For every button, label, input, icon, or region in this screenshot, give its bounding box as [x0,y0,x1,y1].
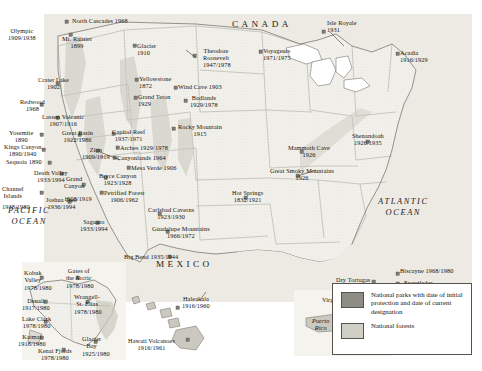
label-dates: 1966/1972 [167,232,195,239]
ocean-line: OCEAN [386,208,421,217]
label-dates: 1909/1919 [82,153,110,160]
park-label: Guadalupe Mountains1966/1972 [152,226,210,239]
label-dates: 1916/1929 [400,56,428,63]
park-label-alaska: 1978/1980 [74,309,102,316]
great-lakes [286,44,370,92]
park-label: 1947/1978 [203,62,231,69]
label-dates: Roosevelt [203,54,229,61]
label-dates: 1916/1960 [182,302,210,309]
park-label: Yellowstone1872 [139,76,171,89]
park-label: Great Smoky Mountains1926 [270,168,334,181]
park-label: North Cascades 1968 [72,18,128,25]
park-label: Yosemite1890 [9,130,33,143]
legend-swatch-parks [341,292,364,308]
park-label: Mammoth Cave1926 [288,145,330,158]
territory-label: PuertoRico [312,318,329,332]
label-dates: 1926 [302,151,315,158]
label-dates: St. Elias [76,300,98,307]
park-label: Great Basin1922/1986 [62,130,93,143]
park-label-alaska: 1978/1980 [24,285,52,292]
label-dates: 1899 [71,42,84,49]
park-label: Acadia1916/1929 [400,50,428,63]
park-label: Carlsbad Caverns1923/1930 [148,207,194,220]
label-dates: 1978/1980 [41,354,69,361]
ocean-label: PACIFICOCEAN [8,205,50,228]
label-dates: 1902 [47,83,60,90]
park-label: ChannelIslands [2,186,24,199]
park-label-alaska: GlacierBay [82,336,101,349]
territory-line: Rico [315,324,327,331]
park-label: Rocky Mountain1915 [178,124,222,137]
park-label-alaska: Kenai Fjords1978/1980 [38,348,72,361]
label-dates: 1890 [15,136,28,143]
label-name: Mesa Verde 1906 [131,164,176,171]
park-label: Voyageurs1971/1975 [263,48,291,61]
park-label: Joshua Tree1936/1994 [46,197,77,210]
label-dates: the Arctic [66,274,92,281]
legend-row-forests: National forests [341,322,465,339]
park-label: Wind Cave 1903 [178,84,222,91]
park-label: Sequoia 1890 [6,159,42,166]
park-label-alaska: Wrangell-St. Elias [74,294,100,307]
national-parks-map: Olympic1909/1938North Cascades 1968Mt. R… [0,0,482,371]
park-label-alaska: Denali1917/1980 [22,298,50,311]
park-label: Arches 1929/1978 [120,145,168,152]
park-label: Olympic1909/1938 [8,28,36,41]
country-label: MEXICO [156,260,213,270]
label-dates: 1909/1938 [8,34,36,41]
label-name: Canyonlands 1964 [117,154,166,161]
country-label: CANADA [232,20,292,30]
park-label-island: Haleakala1916/1960 [182,296,210,309]
park-label: Petrified Forest1906/1962 [104,190,145,203]
park-label-island: Hawaii Volcanoes1916/1961 [128,338,175,351]
park-label: Glacier1910 [137,43,156,56]
park-label-alaska: 1925/1980 [82,351,110,358]
park-label: Kings Canyon1890/1940 [4,144,41,157]
label-dates: 1910 [137,49,150,56]
label-dates: 1923/1930 [157,213,185,220]
legend-label-parks: National parks with date of initial prot… [371,291,465,316]
park-label: Redwood1968 [20,99,45,112]
label-dates: 1926 [296,174,309,181]
label-dates: 1917/1980 [22,304,50,311]
label-dates: 1832/1921 [234,196,262,203]
label-dates: 1890/1940 [9,150,37,157]
legend-label-forests: National forests [371,322,414,330]
label-dates: 1907/1916 [49,120,77,127]
label-dates: 1929/1978 [190,101,218,108]
map-legend: National parks with date of initial prot… [332,283,472,355]
park-label: Hot Springs1832/1921 [232,190,263,203]
label-dates: Canyon [64,182,84,189]
label-name: 1978/1980 [66,282,94,289]
label-dates: 1933/1994 [37,176,65,183]
label-dates: 1937/1971 [115,135,143,142]
park-label: TheodoreRoosevelt [203,48,229,61]
label-name: Arches 1929/1978 [120,144,168,151]
label-dates: Islands [4,192,23,199]
park-label-alaska: KobukValley [24,270,42,283]
label-dates: 1906/1962 [110,196,138,203]
park-label: Badlands1929/1978 [190,95,218,108]
label-dates: 1929 [138,100,151,107]
label-dates: 1931 [327,26,340,33]
park-label: Grand Teton1929 [138,94,171,107]
label-name: Wind Cave 1903 [178,83,222,90]
legend-swatch-forests [341,323,364,339]
label-dates: Valley [24,276,41,283]
label-dates: 1922/1986 [64,136,92,143]
label-name: North Cascades 1968 [72,17,128,24]
ocean-line: ATLANTIC [378,197,429,206]
park-label: Death Valley1933/1994 [34,170,68,183]
label-dates: 1971/1975 [263,54,291,61]
label-dates: 1933/1994 [80,225,108,232]
label-dates: 1916/1961 [138,344,166,351]
legend-row-parks: National parks with date of initial prot… [341,291,465,316]
label-dates: 1915 [193,130,206,137]
park-label: Crater Lake1902 [38,77,69,90]
park-label-alaska: Lake Clark1978/1980 [22,316,51,329]
park-label: Isle Royale1931 [327,20,357,33]
label-dates: 1936/1994 [48,203,76,210]
park-label: Mesa Verde 1906 [131,165,176,172]
park-label: Lassen Volcanic1907/1916 [42,114,84,127]
label-dates: 1926/1935 [354,139,382,146]
